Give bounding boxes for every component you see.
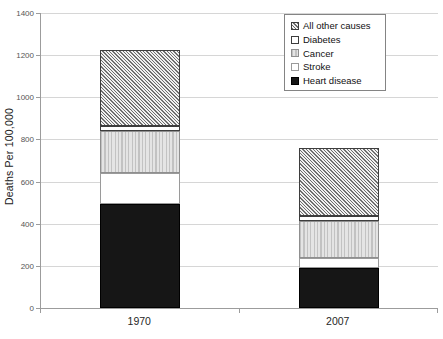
y-tick-mark: [36, 266, 40, 267]
bar-segment-stroke: [100, 173, 180, 204]
y-axis-tick-label: 0: [0, 304, 34, 313]
y-axis-tick-label: 400: [0, 220, 34, 229]
legend-label-stroke: Stroke: [303, 61, 330, 72]
y-axis-tick-label: 600: [0, 178, 34, 187]
y-axis-tick-label: 1200: [0, 51, 34, 60]
bar-segment-all-other-causes: [299, 148, 379, 216]
legend-label-cancer: Cancer: [303, 48, 334, 59]
bar-segment-cancer: [100, 131, 180, 173]
legend-item-diabetes: Diabetes: [291, 33, 381, 47]
bar-segment-diabetes: [100, 126, 180, 131]
bar-segment-all-other-causes: [100, 50, 180, 126]
y-tick-mark: [36, 97, 40, 98]
bar-segment-diabetes: [299, 216, 379, 221]
legend-item-cancer: Cancer: [291, 46, 381, 60]
y-tick-mark: [36, 55, 40, 56]
bar-segment-cancer: [299, 221, 379, 259]
legend: All other causesDiabetesCancerStrokeHear…: [284, 14, 386, 91]
y-axis-title: Deaths Per 100,000: [3, 108, 15, 205]
x-tick-mark: [40, 309, 41, 313]
legend-swatch-cancer-icon: [291, 49, 299, 57]
y-axis-tick-label: 200: [0, 262, 34, 271]
legend-item-heart-disease: Heart disease: [291, 74, 381, 88]
legend-label-all-other-causes: All other causes: [303, 20, 371, 31]
bar-segment-stroke: [299, 258, 379, 267]
x-tick-mark: [437, 309, 438, 313]
legend-item-all-other-causes: All other causes: [291, 19, 381, 33]
x-axis-category-label: 1970: [99, 315, 179, 327]
legend-swatch-diabetes-icon: [291, 36, 299, 44]
x-tick-mark: [239, 309, 240, 313]
legend-item-stroke: Stroke: [291, 60, 381, 74]
x-axis-category-label: 2007: [298, 315, 378, 327]
legend-swatch-stroke-icon: [291, 63, 299, 71]
legend-swatch-all-other-causes-icon: [291, 22, 299, 30]
y-tick-mark: [36, 139, 40, 140]
y-tick-mark: [36, 224, 40, 225]
y-axis-tick-label: 1400: [0, 9, 34, 18]
legend-label-diabetes: Diabetes: [303, 34, 341, 45]
y-axis-tick-label: 1000: [0, 93, 34, 102]
legend-label-heart-disease: Heart disease: [303, 75, 362, 86]
bar-segment-heart-disease: [299, 268, 379, 308]
y-tick-mark: [36, 182, 40, 183]
bar-segment-heart-disease: [100, 204, 180, 308]
y-axis-tick-label: 800: [0, 135, 34, 144]
stacked-bar-chart: Deaths Per 100,000 020040060080010001200…: [0, 0, 443, 339]
legend-swatch-heart-disease-icon: [291, 77, 299, 85]
y-tick-mark: [36, 13, 40, 14]
